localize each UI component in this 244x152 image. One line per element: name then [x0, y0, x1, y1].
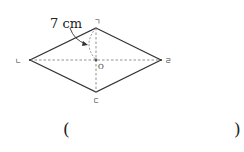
vertex-label-top: ㄱ	[94, 18, 100, 26]
measurement-arc	[89, 28, 96, 60]
vertex-label-left: ㄴ	[15, 57, 21, 65]
arrow-head-icon	[82, 41, 88, 46]
vertex-label-right: ㄹ	[165, 57, 171, 65]
rhombus-diagram: 7 cm ㄱ ㄴ ㄹ ㄷ O	[0, 0, 244, 152]
vertex-label-bottom: ㄷ	[93, 97, 99, 105]
vertex-dot-right	[160, 59, 162, 61]
vertex-dot-left	[29, 59, 31, 61]
center-point	[95, 59, 98, 62]
answer-open-paren: (	[63, 119, 70, 139]
answer-close-paren: )	[234, 119, 241, 139]
measurement-label: 7 cm	[50, 16, 82, 31]
center-label: O	[98, 63, 104, 71]
